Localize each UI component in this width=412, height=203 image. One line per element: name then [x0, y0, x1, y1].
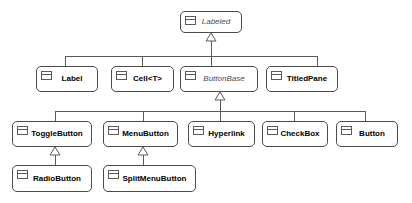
- uml-class-icon: [185, 16, 196, 25]
- class-node-label: RadioButton: [23, 175, 81, 183]
- uml-class-icon: [267, 126, 278, 135]
- class-node-label: ButtonBase: [193, 75, 244, 83]
- generalization-arrow-labeled: [206, 33, 216, 41]
- class-node-titledpane[interactable]: TitledPane: [266, 66, 338, 92]
- class-node-label: Cell<T>: [123, 75, 162, 83]
- class-node-label[interactable]: Label: [36, 66, 98, 92]
- class-node-label: MenuButton: [112, 130, 169, 138]
- uml-class-icon: [185, 71, 196, 80]
- uml-class-icon: [108, 126, 119, 135]
- class-node-checkbox[interactable]: CheckBox: [262, 121, 328, 147]
- uml-class-icon: [108, 170, 119, 179]
- uml-class-icon: [17, 126, 28, 135]
- class-node-buttonbase[interactable]: ButtonBase: [180, 66, 258, 92]
- uml-class-icon: [193, 126, 204, 135]
- class-node-button[interactable]: Button: [336, 121, 398, 147]
- class-node-label: ToggleButton: [21, 130, 82, 138]
- class-node-cell[interactable]: Cell<T>: [111, 66, 174, 92]
- class-node-labeled[interactable]: Labeled: [180, 11, 242, 33]
- generalization-arrow-menubutton: [138, 147, 148, 155]
- class-node-radiobutton[interactable]: RadioButton: [12, 165, 92, 192]
- uml-class-icon: [41, 71, 52, 80]
- class-node-hyperlink[interactable]: Hyperlink: [188, 121, 255, 147]
- class-node-label: Hyperlink: [198, 130, 244, 138]
- uml-class-icon: [341, 126, 352, 135]
- uml-class-diagram: Labeled Label Cell<T> ButtonBase TitledP…: [0, 0, 412, 203]
- class-node-label: Label: [52, 75, 83, 83]
- class-node-label: SplitMenuButton: [113, 175, 187, 183]
- class-node-splitmenubutton[interactable]: SplitMenuButton: [103, 165, 196, 192]
- class-node-label: Labeled: [192, 18, 230, 26]
- uml-class-icon: [17, 170, 28, 179]
- generalization-arrow-buttonbase: [215, 92, 225, 100]
- uml-class-icon: [271, 71, 282, 80]
- class-node-togglebutton[interactable]: ToggleButton: [12, 121, 92, 147]
- edge-group-buttonbase-children: [55, 99, 365, 121]
- class-node-label: TitledPane: [277, 75, 327, 83]
- class-node-menubutton[interactable]: MenuButton: [103, 121, 178, 147]
- uml-class-icon: [116, 71, 127, 80]
- edge-group-labeled-children: [65, 40, 317, 66]
- class-node-label: Button: [349, 130, 385, 138]
- generalization-arrow-togglebutton: [50, 147, 60, 155]
